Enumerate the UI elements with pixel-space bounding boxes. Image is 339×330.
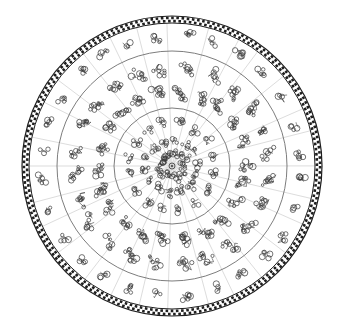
glyph-figure: [69, 150, 77, 159]
star-map-disc: [0, 0, 339, 330]
glyph-figure: [132, 186, 142, 196]
glyph-figure: [143, 198, 154, 208]
glyph-figure: [288, 122, 300, 131]
glyph-figure: [208, 66, 219, 79]
glyph-figure: [193, 159, 203, 171]
glyph-figure: [179, 232, 188, 241]
glyph-figure: [174, 117, 185, 125]
glyph-figure: [137, 96, 146, 104]
glyph-figure: [208, 36, 217, 49]
glyph-figure: [198, 251, 206, 261]
glyph-figure: [75, 166, 84, 175]
glyph-figure: [85, 212, 92, 222]
radial-line: [168, 166, 172, 309]
glyph-figure: [213, 281, 221, 294]
glyph-figure: [259, 250, 273, 261]
glyph-figure: [124, 153, 134, 164]
glyph-figure: [152, 258, 163, 270]
glyph-figure: [77, 255, 87, 265]
glyph-figure: [59, 233, 72, 243]
glyph-figure: [204, 136, 215, 145]
glyph-figure: [45, 206, 52, 215]
glyph-figure: [38, 147, 50, 156]
glyph-figure: [275, 93, 287, 102]
glyph-figure: [198, 97, 206, 106]
glyph-figure: [185, 67, 194, 77]
glyph-figure: [118, 83, 124, 91]
glyph-figure: [214, 106, 223, 115]
glyph-figure: [56, 96, 67, 104]
glyph-figure: [177, 256, 186, 265]
glyph-figure: [93, 168, 104, 179]
glyph-figure: [175, 205, 181, 216]
glyph-figure: [246, 220, 258, 229]
radial-line: [111, 166, 172, 295]
glyph-figure: [153, 289, 163, 298]
glyph-figure: [158, 203, 166, 213]
glyph-figure: [294, 150, 306, 161]
glyph-figure: [97, 271, 110, 280]
glyph-figure: [235, 182, 242, 188]
glyph-figure: [197, 228, 205, 235]
radial-line: [42, 166, 172, 226]
glyph-figure: [209, 152, 219, 161]
glyph-figure: [258, 130, 264, 136]
radial-line: [34, 166, 172, 203]
glyph-figure: [97, 49, 109, 60]
glyph-figure: [296, 174, 308, 182]
radial-line: [172, 166, 209, 304]
glyph-figure: [143, 126, 153, 135]
glyph-figure: [96, 102, 104, 110]
glyph-figure: [124, 283, 134, 294]
glyph-figure: [232, 48, 245, 60]
glyph-figure: [44, 117, 54, 128]
glyph-figure: [84, 222, 94, 231]
glyph-figure: [179, 92, 188, 102]
glyph-figure: [84, 119, 91, 125]
glyph-figure: [158, 237, 170, 246]
glyph-figure: [290, 204, 300, 212]
glyph-figure: [205, 183, 212, 196]
glyph-figure: [180, 292, 193, 303]
glyph-figure: [79, 66, 88, 75]
glyph-figure: [151, 33, 162, 43]
glyph-figure: [69, 172, 76, 183]
glyph-figure: [228, 116, 239, 128]
glyph-figure: [157, 69, 166, 78]
glyph-figure: [103, 233, 112, 241]
glyph-figure: [35, 172, 48, 185]
glyph-figure: [126, 169, 134, 178]
glyph-figure: [174, 184, 184, 195]
radial-line: [172, 166, 234, 295]
glyph-figure: [141, 154, 149, 160]
glyph-figure: [156, 117, 166, 127]
glyph-figure: [236, 268, 248, 279]
radial-line: [172, 76, 283, 166]
glyph-figure: [260, 153, 269, 161]
glyph-figure: [106, 199, 114, 205]
glyph-figure: [255, 66, 267, 78]
glyph-figure: [155, 231, 166, 239]
glyph-figure: [237, 141, 245, 148]
diagram-stage: [0, 0, 339, 330]
hub-dot: [171, 165, 173, 167]
glyph-figure: [208, 168, 218, 179]
glyph-figure: [184, 29, 196, 37]
glyph-figure: [120, 216, 128, 227]
glyph-figure: [185, 180, 196, 192]
glyph-figure: [128, 253, 140, 263]
glyph-figure: [205, 229, 214, 239]
glyph-figure: [221, 240, 232, 249]
glyph-figure: [123, 40, 133, 50]
glyph-figure: [172, 85, 182, 95]
glyph-figure: [278, 232, 288, 244]
radial-line: [44, 102, 172, 166]
glyph-figure: [239, 163, 247, 173]
